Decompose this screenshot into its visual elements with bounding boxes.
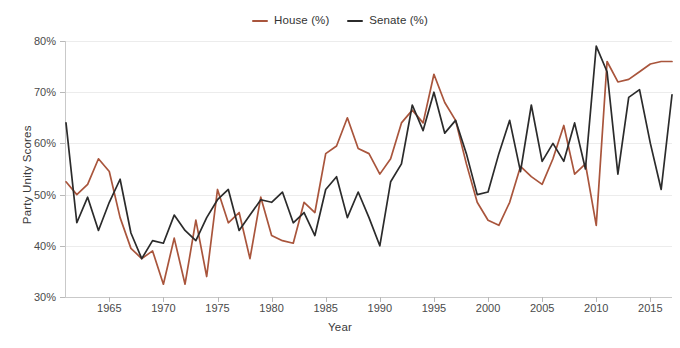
y-tick-mark (60, 143, 65, 144)
plot-background (66, 41, 672, 297)
y-tick-mark (60, 195, 65, 196)
y-gridline (66, 246, 672, 247)
y-tick-label: 40% (0, 240, 56, 251)
x-tick-label: 1990 (368, 303, 392, 314)
y-tick-label: 60% (0, 138, 56, 149)
y-gridline (66, 92, 672, 93)
y-axis-line (65, 41, 66, 298)
x-tick-label: 2005 (530, 303, 554, 314)
x-tick-label: 2015 (638, 303, 662, 314)
x-axis-title: Year (0, 322, 680, 334)
x-tick-label: 1975 (205, 303, 229, 314)
y-gridline (66, 143, 672, 144)
y-tick-label: 80% (0, 36, 56, 47)
chart-legend: House (%)Senate (%) (0, 12, 680, 30)
y-axis-title: Party Unity Scores (22, 95, 34, 255)
x-axis-line (65, 297, 672, 298)
x-tick-label: 2010 (584, 303, 608, 314)
y-tick-label: 50% (0, 189, 56, 200)
x-tick-label: 1995 (422, 303, 446, 314)
y-gridline (66, 195, 672, 196)
x-tick-label: 1985 (313, 303, 337, 314)
y-tick-mark (60, 297, 65, 298)
legend-label: Senate (%) (369, 15, 428, 27)
x-tick-label: 1980 (259, 303, 283, 314)
x-tick-label: 1965 (97, 303, 121, 314)
x-tick-label: 1970 (151, 303, 175, 314)
y-gridline (66, 41, 672, 42)
y-tick-label: 30% (0, 292, 56, 303)
cropped-title-strip (0, 0, 680, 7)
legend-swatch-icon (252, 20, 268, 23)
legend-item-house[interactable]: House (%) (252, 15, 329, 27)
legend-label: House (%) (274, 15, 329, 27)
y-tick-mark (60, 246, 65, 247)
party-unity-line-chart: House (%)Senate (%) Party Unity Scores Y… (0, 0, 680, 348)
legend-swatch-icon (347, 20, 363, 23)
y-tick-mark (60, 92, 65, 93)
legend-item-senate[interactable]: Senate (%) (347, 15, 428, 27)
plot-area (66, 41, 672, 297)
y-tick-label: 70% (0, 87, 56, 98)
x-tick-label: 2000 (476, 303, 500, 314)
y-tick-mark (60, 41, 65, 42)
